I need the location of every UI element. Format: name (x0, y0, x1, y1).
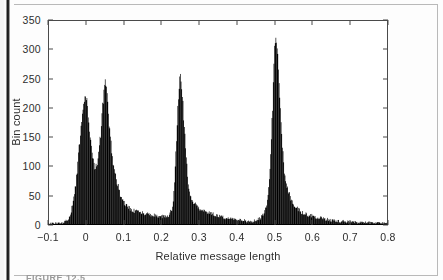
y-tick-label: 350 (23, 14, 41, 26)
y-tick-label: 100 (23, 160, 41, 172)
x-tick-mark (236, 220, 237, 225)
x-tick-label: 0.3 (191, 231, 207, 243)
y-tick-mark (383, 137, 388, 138)
histogram-plot: 050100150200250300350 −0.100.10.20.30.40… (48, 20, 388, 225)
y-tick-label: 0 (35, 219, 41, 231)
x-tick-label: 0.4 (229, 231, 245, 243)
x-tick-mark (388, 20, 389, 25)
y-tick-label: 250 (23, 73, 41, 85)
figure-caption: FIGURE 12.5 (26, 273, 86, 280)
x-tick-label: 0.5 (267, 231, 283, 243)
x-tick-label: 0.7 (342, 231, 358, 243)
x-tick-mark (312, 20, 313, 25)
x-tick-mark (85, 20, 86, 25)
x-tick-mark (388, 220, 389, 225)
y-tick-mark (48, 49, 53, 50)
x-tick-label: −0.1 (37, 231, 59, 243)
y-tick-mark (383, 107, 388, 108)
x-tick-mark (85, 220, 86, 225)
x-tick-label: 0.1 (116, 231, 132, 243)
x-tick-label: 0.8 (380, 231, 396, 243)
y-tick-mark (48, 107, 53, 108)
y-tick-mark (48, 225, 53, 226)
x-tick-mark (199, 20, 200, 25)
y-tick-mark (48, 20, 53, 21)
x-tick-mark (236, 20, 237, 25)
x-tick-mark (123, 20, 124, 25)
y-tick-label: 150 (23, 131, 41, 143)
x-tick-label: 0.6 (305, 231, 321, 243)
page-edge (0, 0, 4, 280)
y-tick-label: 50 (29, 190, 41, 202)
x-tick-mark (350, 20, 351, 25)
x-tick-mark (199, 220, 200, 225)
y-tick-label: 200 (23, 102, 41, 114)
x-tick-mark (312, 220, 313, 225)
x-tick-mark (48, 20, 49, 25)
y-tick-label: 300 (23, 43, 41, 55)
y-tick-mark (383, 78, 388, 79)
x-tick-mark (350, 220, 351, 225)
x-axis-title: Relative message length (155, 250, 280, 262)
x-tick-mark (161, 220, 162, 225)
y-tick-mark (383, 166, 388, 167)
y-tick-mark (48, 137, 53, 138)
x-tick-label: 0.2 (154, 231, 170, 243)
y-tick-mark (383, 195, 388, 196)
scanned-page: 050100150200250300350 −0.100.10.20.30.40… (0, 0, 443, 280)
y-tick-mark (48, 166, 53, 167)
y-tick-mark (383, 49, 388, 50)
x-tick-label: 0 (83, 231, 89, 243)
x-tick-mark (123, 220, 124, 225)
x-tick-mark (161, 20, 162, 25)
x-tick-mark (274, 20, 275, 25)
x-tick-mark (274, 220, 275, 225)
y-axis-title: Bin count (10, 98, 22, 146)
histogram-canvas (48, 20, 388, 225)
y-tick-mark (48, 195, 53, 196)
y-tick-mark (48, 78, 53, 79)
x-tick-mark (48, 220, 49, 225)
